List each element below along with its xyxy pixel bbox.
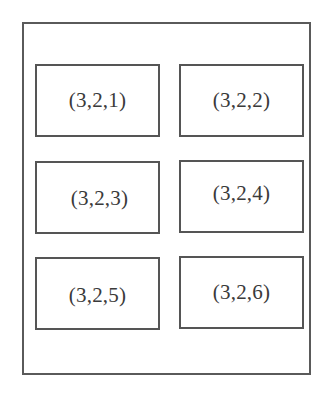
subplot-cell-5: (3,2,5) bbox=[35, 257, 160, 330]
subplot-cell-4: (3,2,4) bbox=[179, 160, 304, 233]
subplot-label-5: (3,2,5) bbox=[69, 283, 126, 308]
subplot-label-1: (3,2,1) bbox=[69, 88, 126, 113]
subplot-cell-6: (3,2,6) bbox=[179, 256, 304, 329]
subplot-label-2: (3,2,2) bbox=[213, 88, 270, 113]
subplot-label-4: (3,2,4) bbox=[213, 181, 270, 206]
subplot-label-3: (3,2,3) bbox=[71, 186, 128, 211]
subplot-cell-2: (3,2,2) bbox=[179, 64, 304, 137]
subplot-cell-3: (3,2,3) bbox=[35, 161, 160, 234]
subplot-cell-1: (3,2,1) bbox=[35, 64, 160, 137]
subplot-label-6: (3,2,6) bbox=[213, 280, 270, 305]
